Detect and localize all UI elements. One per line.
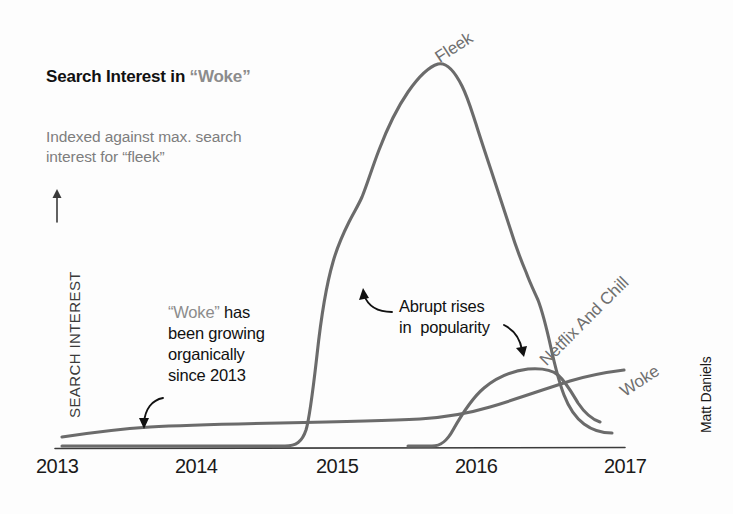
callout-abrupt-rises: Abrupt rises in popularity (399, 296, 490, 338)
y-axis-label-text: SEARCH INTEREST (66, 271, 83, 418)
credit-byline: Matt Daniels (698, 356, 714, 433)
series-line-woke (62, 370, 624, 437)
x-tick-2013: 2013 (36, 455, 79, 478)
callout-woke-organic-growth: “Woke” has been growing organically sinc… (168, 302, 265, 386)
callout-arrow-woke (139, 398, 163, 429)
callout-arrow-fleek-rise (359, 288, 392, 312)
x-axis-line (55, 448, 625, 449)
page-title-main: Search Interest in (46, 67, 190, 86)
page-subtitle: Indexed against max. search interest for… (46, 127, 376, 167)
title-block: Search Interest in “Woke” Indexed agains… (46, 30, 376, 203)
x-tick-2017: 2017 (604, 455, 647, 478)
chart-figure: Search Interest in “Woke” Indexed agains… (0, 0, 733, 514)
callout-woke-quoted: “Woke” (168, 303, 220, 321)
x-tick-2014: 2014 (175, 455, 218, 478)
page-title-quoted: “Woke” (190, 67, 251, 86)
page-title: Search Interest in “Woke” (46, 66, 376, 88)
x-tick-2016: 2016 (455, 455, 498, 478)
y-axis-label: SEARCH INTEREST → (66, 251, 83, 418)
callout-arrow-netflix-rise (504, 325, 527, 357)
x-tick-2015: 2015 (316, 455, 359, 478)
